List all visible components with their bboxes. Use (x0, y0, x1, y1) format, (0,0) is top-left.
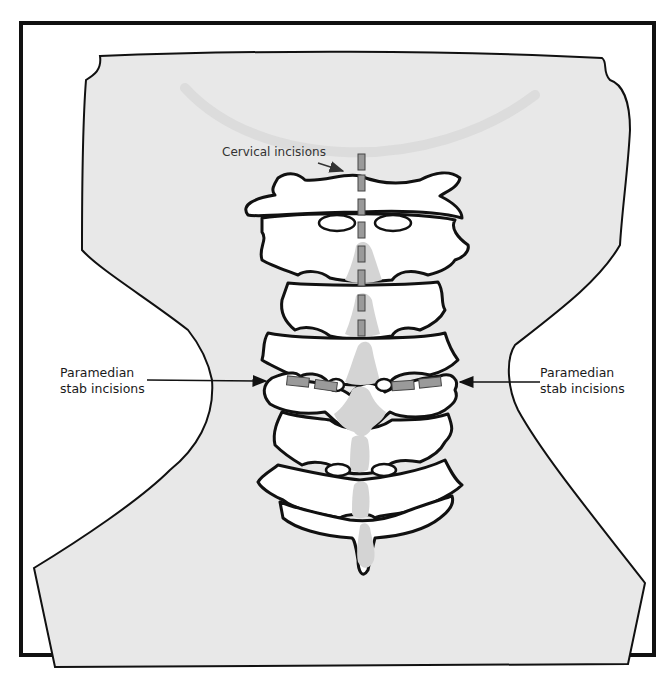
cervical-incision-3 (358, 199, 365, 215)
paramedian-left-line1: Paramedian (60, 365, 145, 381)
cervical-incisions-label: Cervical incisions (222, 144, 326, 160)
paramedian-right-2 (419, 377, 442, 388)
paramedian-left-line2: stab incisions (60, 381, 145, 397)
paramedian-right-label: Paramedian stab incisions (540, 365, 625, 397)
cervical-incision-7 (358, 295, 365, 311)
paramedian-left-1 (287, 376, 310, 387)
cervical-incision-8 (358, 320, 365, 336)
cervical-incision-2 (358, 175, 365, 191)
cervical-incision-4 (358, 222, 365, 238)
paramedian-right-line2: stab incisions (540, 381, 625, 397)
paramedian-right-line1: Paramedian (540, 365, 625, 381)
paramedian-right-1 (392, 380, 415, 391)
left-arrow (147, 380, 266, 381)
cervical-spine-diagram (0, 0, 668, 673)
cervical-incision-1 (358, 154, 365, 170)
cervical-incision-5 (358, 246, 365, 262)
vertebra-c1 (246, 173, 462, 218)
paramedian-left-label: Paramedian stab incisions (60, 365, 145, 397)
cervical-incision-6 (358, 270, 365, 286)
